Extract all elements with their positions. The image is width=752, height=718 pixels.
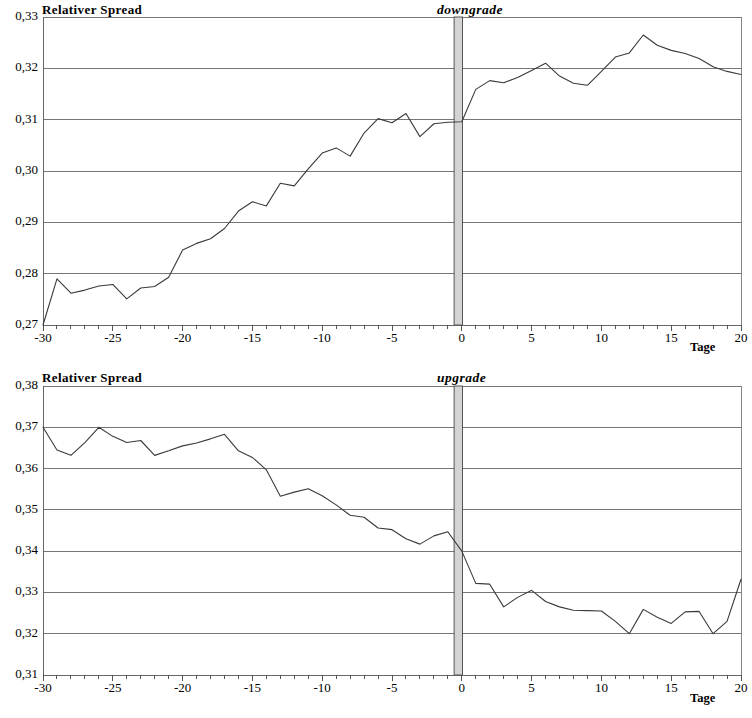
y-tick-label: 0,29: [0, 213, 38, 229]
x-tick-label: -20: [163, 330, 203, 346]
plot-area-downgrade: [0, 0, 745, 366]
chart-panel-downgrade: Relativer Spread downgrade Tage 0,270,28…: [0, 0, 745, 366]
x-tick-label: 10: [581, 680, 621, 696]
y-tick-label: 0,33: [0, 8, 38, 24]
y-tick-label: 0,32: [0, 59, 38, 75]
x-tick-label: -20: [163, 680, 203, 696]
x-tick-label: 5: [512, 330, 552, 346]
x-tick-label: -15: [232, 680, 272, 696]
x-tick-label: 0: [442, 330, 482, 346]
x-tick-label: -10: [302, 680, 342, 696]
x-tick-label: 5: [512, 680, 552, 696]
x-tick-label: 20: [721, 330, 752, 346]
y-tick-label: 0,34: [0, 542, 38, 558]
x-tick-label: 0: [442, 680, 482, 696]
x-tick-label: -10: [302, 330, 342, 346]
x-tick-label: 10: [581, 330, 621, 346]
chart-panel-upgrade: Relativer Spread upgrade Tage 0,310,320,…: [0, 366, 745, 718]
plot-area-upgrade: [0, 366, 745, 718]
x-tick-label: -30: [23, 680, 63, 696]
x-tick-label: -15: [232, 330, 272, 346]
y-tick-label: 0,36: [0, 460, 38, 476]
y-tick-label: 0,31: [0, 111, 38, 127]
y-tick-label: 0,28: [0, 265, 38, 281]
x-tick-label: 20: [721, 680, 752, 696]
y-tick-label: 0,35: [0, 501, 38, 517]
x-tick-label: 15: [651, 680, 691, 696]
x-tick-label: -5: [372, 680, 412, 696]
x-tick-label: -30: [23, 330, 63, 346]
x-tick-label: 15: [651, 330, 691, 346]
x-tick-label: -25: [93, 680, 133, 696]
y-tick-label: 0,37: [0, 418, 38, 434]
y-tick-label: 0,30: [0, 162, 38, 178]
y-tick-label: 0,32: [0, 625, 38, 641]
x-tick-label: -5: [372, 330, 412, 346]
y-tick-label: 0,33: [0, 583, 38, 599]
x-tick-label: -25: [93, 330, 133, 346]
y-tick-label: 0,38: [0, 377, 38, 393]
